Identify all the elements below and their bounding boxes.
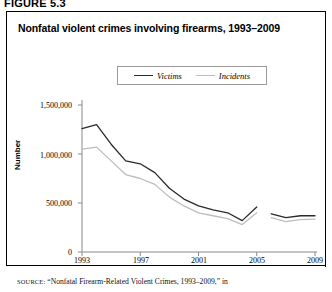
line-victims-segment2 — [271, 214, 315, 218]
x-tick-label-1993: 1993 — [62, 256, 102, 265]
figure-root: FIGURE 5.3 Nonfatal violent crimes invol… — [0, 0, 332, 292]
source-text: “Nonfatal Firearm-Related Violent Crimes… — [47, 277, 228, 286]
line-incidents-main — [82, 147, 257, 224]
y-axis-label: Number — [13, 140, 22, 170]
series-lines — [82, 125, 315, 225]
line-victims-main — [82, 125, 257, 221]
y-tick-label-1500k: 1,500,000 — [28, 101, 72, 110]
axis-lines — [82, 100, 317, 252]
x-tick-label-1997: 1997 — [121, 256, 161, 265]
source-label: SOURCE: — [17, 278, 45, 285]
y-tick-label-1000k: 1,000,000 — [28, 151, 72, 160]
line-incidents-segment2 — [271, 218, 315, 222]
x-tick-label-2009: 2009 — [295, 256, 332, 265]
y-axis-ticks — [78, 105, 82, 252]
source-note: SOURCE: “Nonfatal Firearm-Related Violen… — [17, 277, 228, 286]
y-tick-label-500k: 500,000 — [28, 199, 72, 208]
x-tick-label-2005: 2005 — [237, 256, 277, 265]
x-tick-label-2001: 2001 — [179, 256, 219, 265]
plot-area: Number 0 500,000 1,000,000 1,500,000 199… — [0, 0, 332, 292]
